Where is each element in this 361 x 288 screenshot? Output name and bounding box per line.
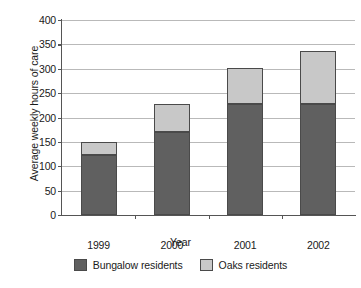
y-tick-label: 400	[39, 14, 56, 26]
y-tick-mark	[58, 93, 62, 94]
bar-segment[interactable]	[81, 142, 117, 155]
x-tick-mark	[135, 215, 136, 219]
legend-item[interactable]: Oaks residents	[200, 259, 288, 271]
x-axis-title: Year	[0, 236, 361, 248]
y-tick-mark	[58, 166, 62, 167]
y-tick-mark	[58, 191, 62, 192]
bar-segment[interactable]	[154, 104, 190, 132]
y-tick-label: 150	[39, 136, 56, 148]
bar-group[interactable]	[227, 20, 263, 215]
bar-segment[interactable]	[227, 68, 263, 105]
bar-segment[interactable]	[227, 104, 263, 215]
y-tick-label: 300	[39, 63, 56, 75]
y-tick-mark	[58, 215, 62, 216]
bar-group[interactable]	[154, 20, 190, 215]
y-tick-mark	[58, 44, 62, 45]
legend-label: Bungalow residents	[93, 259, 183, 271]
bar-segment[interactable]	[154, 132, 190, 215]
y-tick-mark	[58, 69, 62, 70]
bar-group[interactable]	[300, 20, 336, 215]
y-tick-label: 50	[45, 185, 56, 197]
y-tick-label: 100	[39, 160, 56, 172]
chart-legend: Bungalow residentsOaks residents	[0, 259, 361, 271]
bar-group[interactable]	[81, 20, 117, 215]
y-tick-mark	[58, 118, 62, 119]
y-axis-title: Average weekly hours of care	[29, 14, 40, 214]
legend-swatch-icon	[200, 259, 213, 271]
stacked-bar-chart-figure: Average weekly hours of care 05010015020…	[0, 0, 361, 288]
y-tick-label: 250	[39, 87, 56, 99]
y-tick-mark	[58, 142, 62, 143]
y-tick-label: 350	[39, 38, 56, 50]
bar-segment[interactable]	[81, 155, 117, 215]
y-tick-label: 200	[39, 112, 56, 124]
plot-area: 0501001502002503003504001999200020012002	[62, 20, 355, 215]
legend-item[interactable]: Bungalow residents	[74, 259, 183, 271]
legend-label: Oaks residents	[219, 259, 288, 271]
x-tick-mark	[209, 215, 210, 219]
x-tick-mark	[282, 215, 283, 219]
y-tick-label: 0	[50, 209, 56, 221]
legend-swatch-icon	[74, 259, 87, 271]
y-tick-mark	[58, 20, 62, 21]
bar-segment[interactable]	[300, 104, 336, 215]
bar-segment[interactable]	[300, 51, 336, 104]
